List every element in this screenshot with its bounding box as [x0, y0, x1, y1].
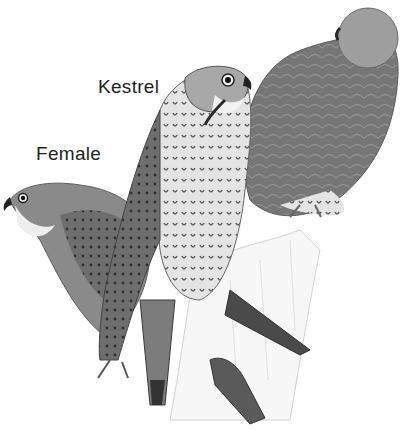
label-kestrel: Kestrel — [98, 76, 159, 98]
label-female: Female — [36, 143, 101, 165]
male-kestrel-back — [243, 8, 398, 217]
kestrel-illustration — [0, 0, 406, 430]
